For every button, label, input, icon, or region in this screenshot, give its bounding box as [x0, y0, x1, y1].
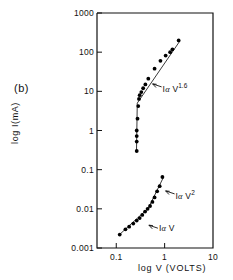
data-point-upper-branch — [171, 47, 175, 51]
fit-line-upper-riser — [136, 103, 137, 151]
y-tick-label-0.01: 0.01 — [52, 204, 94, 214]
data-point-upper-branch — [141, 86, 145, 90]
annotation-arrowhead-lower-slope-lin — [149, 225, 153, 229]
y-tick-label-0.001: 0.001 — [52, 243, 94, 253]
data-point-upper-branch — [139, 90, 143, 94]
data-point-upper-branch — [146, 77, 150, 81]
y-tick-label-10: 10 — [52, 86, 94, 96]
y-tick-label-100: 100 — [52, 47, 94, 57]
y-tick-label-1: 1 — [52, 126, 94, 136]
data-point-lower-branch — [131, 222, 135, 226]
data-point-lower-branch — [148, 204, 152, 208]
data-point-lower-branch — [118, 233, 122, 237]
annotation-lower-slope-lin: Iα V — [159, 223, 175, 233]
data-point-lower-branch — [140, 213, 144, 217]
data-point-upper-branch — [135, 149, 139, 153]
data-point-lower-branch — [127, 225, 131, 229]
axis-ticks — [97, 13, 165, 248]
annotation-arrowhead-lower-slope-sq — [166, 191, 170, 195]
data-point-upper-branch — [136, 117, 140, 121]
data-point-upper-branch — [135, 134, 139, 138]
data-point-upper-branch — [159, 59, 163, 63]
data-point-lower-branch — [124, 227, 128, 231]
data-point-lower-branch — [153, 196, 157, 200]
data-point-upper-branch — [164, 54, 168, 58]
x-tick-label-1: 1 — [151, 252, 179, 262]
plot-axes — [97, 13, 213, 248]
data-point-upper-branch — [135, 140, 139, 144]
x-tick-label-0.1: 0.1 — [102, 252, 130, 262]
data-point-lower-branch — [151, 200, 155, 204]
figure-panel-b: (b) log I(mA) log V (VOLTS) 0.0010.010.1… — [0, 0, 233, 280]
annotation-upper-slope: Iα V1.6 — [163, 82, 188, 94]
data-point-upper-branch — [137, 97, 141, 101]
data-point-lower-branch — [158, 184, 162, 188]
data-point-upper-branch — [135, 129, 139, 133]
data-point-upper-branch — [153, 67, 157, 71]
annotation-lower-slope-sq: Iα V2 — [176, 189, 195, 201]
data-point-upper-branch — [136, 104, 140, 108]
y-tick-label-1000: 1000 — [52, 8, 94, 18]
data-point-lower-branch — [135, 219, 139, 223]
axis-frame — [97, 13, 213, 248]
y-axis-label: log I(mA) — [10, 88, 20, 158]
x-tick-label-10: 10 — [199, 252, 227, 262]
x-axis-label: log V (VOLTS) — [138, 263, 206, 273]
data-point-lower-branch — [138, 216, 142, 220]
data-point-upper-branch — [177, 38, 181, 42]
data-point-lower-branch — [161, 175, 165, 179]
annotation-arrowhead-upper-slope — [153, 84, 157, 88]
fit-line-lower-fit-square — [148, 178, 163, 209]
y-tick-label-0.1: 0.1 — [52, 165, 94, 175]
data-point-upper-branch — [143, 83, 147, 87]
data-points — [118, 38, 181, 236]
plot-svg — [0, 0, 233, 280]
data-point-lower-branch — [155, 189, 159, 193]
